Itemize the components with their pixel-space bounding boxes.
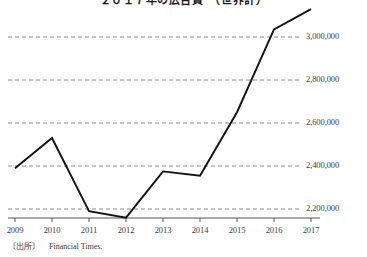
x-axis-tick-label: 2017 <box>291 225 331 235</box>
source-note: 〔出所〕Financial Times. <box>8 240 102 251</box>
data-series-line <box>15 9 311 218</box>
y-axis-tick-label: 2,400,000 <box>306 160 339 170</box>
y-axis-tick-label: 3,000,000 <box>306 31 339 41</box>
x-axis-tick-label: 2013 <box>143 225 183 235</box>
x-axis-tick-label: 2011 <box>69 225 109 235</box>
x-tick-marks-group <box>15 218 311 222</box>
y-axis-tick-label: 2,600,000 <box>306 117 339 127</box>
x-axis-tick-label: 2012 <box>106 225 146 235</box>
x-axis-tick-label: 2014 <box>180 225 220 235</box>
x-axis-tick-label: 2010 <box>32 225 72 235</box>
y-axis-tick-label: 2,800,000 <box>306 74 339 84</box>
y-axis-tick-label: 2,200,000 <box>306 203 339 213</box>
x-axis-tick-label: 2015 <box>217 225 257 235</box>
source-tag: 〔出所〕 <box>8 240 40 251</box>
source-text: Financial Times. <box>49 242 102 251</box>
chart-figure: ２０１７年の広告費 （世界計） 3,000,0002,800,0002,600,… <box>0 0 367 257</box>
x-axis-tick-label: 2016 <box>254 225 294 235</box>
x-axis-tick-label: 2009 <box>0 225 35 235</box>
